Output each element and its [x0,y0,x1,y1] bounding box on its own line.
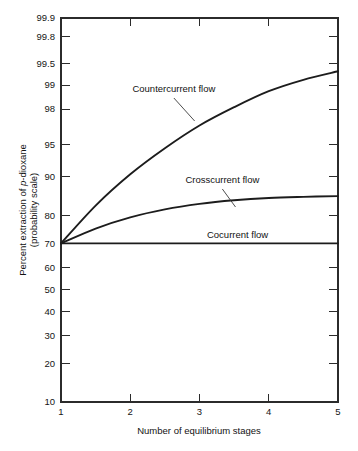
extraction-probability-chart: 10203040506070809095989999.599.899.9 123… [0,0,358,451]
chart-figure: 10203040506070809095989999.599.899.9 123… [0,0,358,451]
plot-frame [61,18,338,402]
leader-line [222,189,235,207]
y-tick-label: 40 [44,306,55,317]
y-axis-ticks-right [329,37,338,364]
y-tick-label: 60 [44,262,55,273]
y-axis-title: Percent extraction of p-dioxane (probabi… [17,144,39,276]
y-tick-label: 99.8 [37,31,56,42]
x-tick-label: 3 [197,406,202,417]
curve-label-countercurrent-flow: Countercurrent flow [132,83,215,94]
x-tick-label: 4 [266,406,271,417]
y-tick-label: 99.9 [37,12,56,23]
leader-line [174,98,195,121]
annotation-leader-lines [174,98,236,207]
y-tick-label: 80 [44,210,55,221]
y-tick-label: 70 [44,238,55,249]
y-axis-title-line2: (probability scale) [28,173,39,247]
curve-countercurrent-flow [61,71,338,243]
y-tick-label: 99.5 [37,58,56,69]
x-tick-label: 1 [58,406,63,417]
x-axis-tick-labels: 12345 [58,406,340,417]
curve-label-crosscurrent-flow: Crosscurrent flow [185,174,259,185]
x-axis-title: Number of equilibrium stages [137,425,261,436]
y-tick-label: 98 [44,103,55,114]
x-tick-label: 5 [335,406,340,417]
curve-annotations: Countercurrent flowCrosscurrent flowCocu… [132,83,268,240]
y-axis-tick-labels: 10203040506070809095989999.599.899.9 [37,12,56,407]
y-tick-label: 30 [44,330,55,341]
y-tick-label: 95 [44,139,55,150]
y-axis-ticks [61,37,70,364]
curve-label-cocurrent-flow: Cocurrent flow [207,229,268,240]
curve-crosscurrent-flow [61,196,338,243]
y-tick-label: 20 [44,358,55,369]
x-axis-ticks [130,18,269,402]
y-tick-label: 50 [44,284,55,295]
y-axis-title-line1: Percent extraction of p-dioxane [17,144,28,276]
y-tick-label: 99 [44,79,55,90]
data-curves [61,71,338,243]
y-tick-label: 90 [44,171,55,182]
y-tick-label: 10 [44,396,55,407]
x-tick-label: 2 [128,406,133,417]
